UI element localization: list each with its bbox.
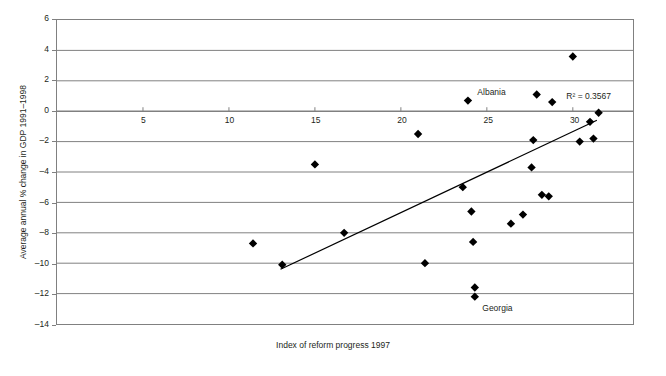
y-axis-tick-label: –4 [16, 166, 49, 176]
y-axis-tick-label: –12 [16, 288, 49, 298]
y-axis-tick-label: –8 [16, 227, 49, 237]
y-axis-tick [52, 19, 56, 20]
y-axis-tick-label: 6 [16, 13, 49, 23]
y-axis-tick [52, 50, 56, 51]
y-axis-tick [52, 325, 56, 326]
y-axis-tick [52, 141, 56, 142]
y-axis-tick-label: –6 [16, 197, 49, 207]
point-label-georgia: Georgia [482, 303, 512, 313]
labels-overlay-layer: 51015202530AlbaniaGeorgiaR² = 0.3567 [57, 20, 633, 324]
x-axis-tick-label: 5 [123, 115, 163, 125]
y-axis-tick-label: 4 [16, 44, 49, 54]
x-axis-tick-label: 25 [468, 115, 508, 125]
y-axis-tick-label: –10 [16, 258, 49, 268]
y-axis-tick [52, 203, 56, 204]
y-axis-tick-label: –14 [16, 319, 49, 329]
plot-area: 51015202530AlbaniaGeorgiaR² = 0.3567 [56, 19, 634, 325]
x-axis-tick-label: 10 [210, 115, 250, 125]
x-axis-tick-label: 30 [555, 115, 595, 125]
y-axis-tick [52, 264, 56, 265]
y-axis-tick [52, 294, 56, 295]
scatter-chart-figure: Average annual % change in GDP 1991–1998… [0, 0, 666, 376]
x-axis-title: Index of reform progress 1997 [0, 340, 666, 350]
point-label-albania: Albania [477, 87, 505, 97]
y-axis-tick [52, 111, 56, 112]
y-axis-tick [52, 172, 56, 173]
r-squared-annotation: R² = 0.3567 [566, 91, 611, 101]
y-axis-tick-label: 0 [16, 105, 49, 115]
y-axis-tick [52, 233, 56, 234]
x-axis-tick-label: 15 [296, 115, 336, 125]
y-axis-tick-label: 2 [16, 74, 49, 84]
y-axis-tick [52, 80, 56, 81]
y-axis-tick-label: –2 [16, 135, 49, 145]
x-axis-tick-label: 20 [382, 115, 422, 125]
